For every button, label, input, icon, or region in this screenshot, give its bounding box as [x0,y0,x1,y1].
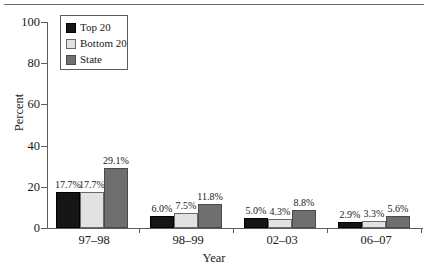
bar-bottom-20 [174,213,198,228]
legend-label: Bottom 20 [80,38,127,49]
x-axis-category-label: 97–98 [47,234,141,247]
top-divider-rule [4,4,424,5]
bar-value-label: 8.8% [286,198,322,208]
chart-figure: 020406080100 97–9898–9902–0306–07 17.7%1… [0,0,428,271]
legend-item: State [66,53,102,66]
bar-bottom-20 [80,192,104,228]
legend-label: Top 20 [80,22,111,33]
bar-top-20 [244,218,268,228]
bar-value-label: 11.8% [192,192,228,202]
x-axis-category-label: 98–99 [141,234,235,247]
bar-top-20 [338,222,362,228]
y-axis-tick [41,228,47,229]
bar-value-label: 29.1% [98,156,134,166]
x-axis-line [47,228,423,229]
bar-state [292,210,316,228]
x-axis-tick [233,228,234,233]
legend-swatch-icon [66,23,76,33]
bar-top-20 [150,216,174,228]
legend-label: State [80,54,102,65]
chart-legend: Top 20Bottom 20State [60,15,128,70]
x-axis-tick [139,228,140,233]
y-axis-tick-label: 20 [0,181,40,194]
y-axis-title: Percent [12,58,27,168]
y-axis-tick-label: 100 [0,16,40,29]
bar-group: 5.0%4.3%8.8% [235,22,329,228]
bar-bottom-20 [268,219,292,228]
x-axis-category-label: 02–03 [235,234,329,247]
x-axis-category-label: 06–07 [329,234,423,247]
y-axis-tick-label: 0 [0,222,40,235]
bar-bottom-20 [362,221,386,228]
x-axis-title: Year [0,251,428,266]
legend-item: Bottom 20 [66,37,127,50]
x-axis-tick [421,228,422,233]
bar-group: 2.9%3.3%5.6% [329,22,423,228]
legend-swatch-icon [66,55,76,65]
bar-value-label: 5.6% [380,204,416,214]
bar-group: 6.0%7.5%11.8% [141,22,235,228]
bar-state [386,216,410,228]
bar-state [104,168,128,228]
x-axis-tick [327,228,328,233]
bar-top-20 [56,192,80,228]
legend-swatch-icon [66,39,76,49]
bar-state [198,204,222,228]
legend-item: Top 20 [66,21,111,34]
